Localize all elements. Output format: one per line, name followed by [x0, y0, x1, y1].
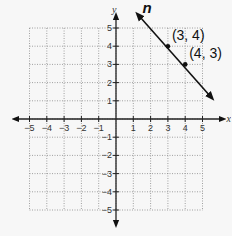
x-tick-label: 5: [200, 123, 205, 133]
x-tick-label: −4: [42, 123, 52, 133]
y-tick-label: 5: [107, 23, 112, 33]
x-tick-label: 3: [165, 123, 170, 133]
x-tick-label: 4: [183, 123, 188, 133]
point-label: (3, 4): [172, 27, 205, 43]
x-tick-label: −2: [76, 123, 86, 133]
y-axis-label: y: [111, 4, 117, 15]
data-point: [166, 44, 171, 49]
y-tick-label: 2: [107, 78, 112, 88]
x-tick-label: −3: [59, 123, 69, 133]
line-n-label: n: [142, 0, 151, 16]
y-tick-label: 3: [107, 59, 112, 69]
x-axis-label: x: [226, 113, 232, 124]
point-label: (4, 3): [189, 45, 222, 61]
x-tick-label: 1: [131, 123, 136, 133]
x-tick-label: −5: [24, 123, 34, 133]
y-tick-label: −2: [102, 150, 112, 160]
y-tick-label: 1: [107, 96, 112, 106]
y-tick-label: −1: [102, 132, 112, 142]
x-tick-label: 2: [148, 123, 153, 133]
y-tick-label: −5: [102, 205, 112, 215]
y-tick-label: 4: [107, 41, 112, 51]
data-point: [183, 62, 188, 67]
coordinate-plane: xy −5−4−3−2−11234554321−1−2−3−4−5 n(3, 4…: [0, 0, 231, 236]
y-tick-label: −3: [102, 169, 112, 179]
y-tick-label: −4: [102, 187, 112, 197]
